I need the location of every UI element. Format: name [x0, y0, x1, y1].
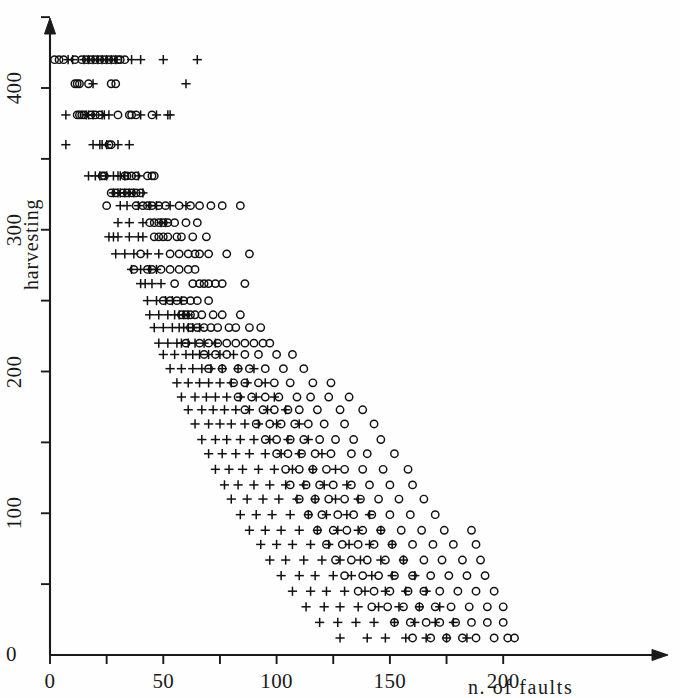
data-point-plus: [204, 449, 213, 458]
data-point-plus: [256, 540, 265, 549]
data-point-plus: [240, 419, 249, 428]
data-point-plus: [388, 540, 397, 549]
data-point-circle: [327, 450, 334, 457]
scatter-plot-figure: 050100150200 100200300400 0 n. of faults…: [0, 0, 680, 698]
data-point-circle: [447, 603, 454, 610]
data-point-plus: [224, 465, 233, 474]
data-point-plus: [227, 419, 236, 428]
data-point-plus: [288, 540, 297, 549]
data-point-plus: [356, 555, 365, 564]
data-point-plus: [154, 310, 163, 319]
data-point-plus: [113, 218, 122, 227]
data-point-circle: [309, 379, 316, 386]
data-point-circle: [316, 436, 323, 443]
data-point-circle: [341, 466, 348, 473]
data-point-plus: [236, 510, 245, 519]
data-point-circle: [484, 619, 491, 626]
data-point-circle: [182, 219, 189, 226]
data-point-plus: [150, 323, 159, 332]
data-point-plus: [329, 571, 338, 580]
data-point-plus: [125, 218, 134, 227]
data-point-plus: [177, 392, 186, 401]
series-circle: [51, 56, 518, 642]
data-point-plus: [401, 633, 410, 642]
data-point-plus: [238, 465, 247, 474]
data-point-circle: [112, 80, 119, 87]
data-point-circle: [359, 406, 366, 413]
data-point-circle: [194, 219, 201, 226]
data-point-plus: [154, 339, 163, 348]
data-point-plus: [415, 602, 424, 611]
data-point-plus: [315, 618, 324, 627]
data-point-plus: [277, 571, 286, 580]
data-point-plus: [295, 526, 304, 535]
data-point-circle: [175, 250, 182, 257]
data-point-circle: [418, 527, 425, 534]
data-point-circle: [391, 450, 398, 457]
data-point-plus: [286, 510, 295, 519]
data-point-circle: [175, 266, 182, 273]
data-point-plus: [138, 232, 147, 241]
data-point-circle: [219, 202, 226, 209]
data-point-plus: [220, 405, 229, 414]
data-point-circle: [500, 619, 507, 626]
data-point-plus: [163, 339, 172, 348]
data-point-circle: [178, 233, 185, 240]
data-point-plus: [122, 201, 131, 210]
data-point-plus: [265, 480, 274, 489]
data-point-plus: [220, 480, 229, 489]
data-point-plus: [166, 110, 175, 119]
data-point-circle: [477, 556, 484, 563]
data-point-plus: [61, 110, 70, 119]
data-point-plus: [363, 633, 372, 642]
data-point-circle: [189, 233, 196, 240]
data-point-plus: [301, 602, 310, 611]
data-point-circle: [241, 351, 248, 358]
data-point-circle: [205, 250, 212, 257]
data-point-circle: [377, 436, 384, 443]
data-point-circle: [490, 588, 497, 595]
data-point-circle: [330, 481, 337, 488]
data-point-plus: [152, 296, 161, 305]
data-point-plus: [277, 526, 286, 535]
data-point-circle: [257, 324, 264, 331]
data-point-circle: [196, 250, 203, 257]
data-point-plus: [245, 449, 254, 458]
data-point-circle: [420, 495, 427, 502]
data-point-circle: [223, 250, 230, 257]
data-point-plus: [120, 249, 129, 258]
data-point-plus: [376, 526, 385, 535]
data-point-circle: [490, 634, 497, 641]
y-tick-label: 100: [2, 497, 38, 530]
data-point-plus: [156, 279, 165, 288]
data-point-plus: [154, 249, 163, 258]
data-point-plus: [243, 494, 252, 503]
data-point-plus: [288, 587, 297, 596]
data-point-plus: [145, 310, 154, 319]
data-point-plus: [181, 79, 190, 88]
data-point-plus: [211, 465, 220, 474]
data-point-circle: [166, 266, 173, 273]
data-point-circle: [441, 527, 448, 534]
data-point-plus: [236, 435, 245, 444]
data-point-plus: [143, 249, 152, 258]
data-point-circle: [320, 420, 327, 427]
y-tick-label: 400: [2, 72, 38, 105]
data-point-plus: [265, 555, 274, 564]
data-point-circle: [472, 634, 479, 641]
data-point-plus: [104, 110, 113, 119]
data-point-plus: [374, 602, 383, 611]
data-point-plus: [202, 392, 211, 401]
data-point-plus: [136, 265, 145, 274]
data-point-circle: [407, 511, 414, 518]
data-point-circle: [246, 324, 253, 331]
data-point-circle: [171, 280, 178, 287]
data-point-plus: [342, 510, 351, 519]
data-point-circle: [472, 588, 479, 595]
x-axis-arrow-icon: [652, 650, 668, 661]
data-point-circle: [273, 351, 280, 358]
data-point-plus: [340, 587, 349, 596]
data-point-circle: [370, 588, 377, 595]
data-point-plus: [159, 323, 168, 332]
data-point-plus: [172, 378, 181, 387]
